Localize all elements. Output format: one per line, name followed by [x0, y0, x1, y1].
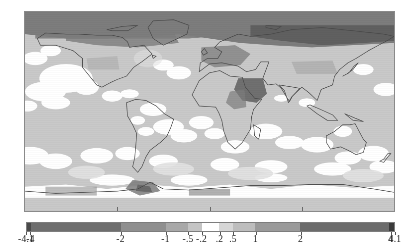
colorbar-tick-label: -1 [161, 234, 169, 244]
colorbar-tick-label: 1 [253, 234, 258, 244]
colorbar: -4.1-4-2-1-.5-.2.2.51244.1 [26, 222, 395, 232]
world-anomaly-map [24, 11, 395, 212]
colorbar-tick-label: -4 [26, 234, 34, 244]
colorbar-tick-label: -2 [116, 234, 124, 244]
colorbar-tick-label: .2 [216, 234, 224, 244]
colorbar-segment [188, 223, 201, 231]
colorbar-segment [389, 223, 393, 231]
colorbar-segment [233, 223, 255, 231]
colorbar-segment [202, 223, 220, 231]
colorbar-tick-labels: -4.1-4-2-1-.5-.2.2.51244.1 [26, 234, 395, 250]
colorbar-tick-label: 4.1 [389, 234, 401, 244]
map-xtick [302, 207, 303, 211]
map-xtick [117, 207, 118, 211]
figure-root: -4.1-4-2-1-.5-.2.2.51244.1 [0, 0, 418, 250]
colorbar-tick-label: -.2 [196, 234, 207, 244]
colorbar-segment [255, 223, 300, 231]
map-xtick [210, 207, 211, 211]
map-raster [25, 12, 394, 211]
colorbar-segment [31, 223, 121, 231]
colorbar-tick-label: -.5 [183, 234, 194, 244]
colorbar-segment [121, 223, 166, 231]
colorbar-tick-label: .5 [229, 234, 237, 244]
colorbar-segment [219, 223, 232, 231]
colorbar-segment [300, 223, 390, 231]
colorbar-segments [26, 222, 395, 232]
colorbar-tick-label: 2 [298, 234, 303, 244]
colorbar-segment [166, 223, 188, 231]
